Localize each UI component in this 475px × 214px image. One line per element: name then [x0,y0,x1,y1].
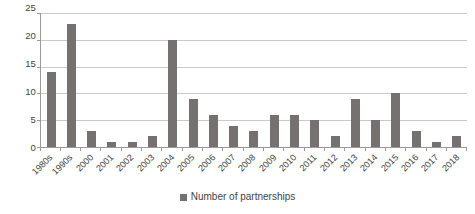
bar [290,115,299,147]
bar-slot [102,13,122,147]
bar [47,72,56,147]
bar-slot [61,13,81,147]
bar [391,93,400,147]
plot-area [40,13,467,147]
bar [371,120,380,147]
bar-slot [284,13,304,147]
bar-slot [345,13,365,147]
bar [209,115,218,147]
bar-slot [244,13,264,147]
bar-slot [163,13,183,147]
bar-series-number-of-partnerships [41,13,467,147]
y-axis-tick-label: 5 [31,115,36,125]
bar [67,24,76,147]
y-axis-tick-label: 25 [25,3,36,13]
y-axis-tick-label: 10 [25,87,36,97]
chart-legend: Number of partnerships [0,192,475,202]
y-axis-tick-label: 0 [31,143,36,153]
legend-item-label: Number of partnerships [191,192,296,202]
bar-slot [82,13,102,147]
bar-slot [183,13,203,147]
bar-chart: 2520151050 1980s1990s2000200120022003200… [0,0,475,214]
bar-slot [325,13,345,147]
bar-slot [203,13,223,147]
y-axis-tick-labels: 2520151050 [14,8,36,148]
bar [168,40,177,147]
bar-slot [386,13,406,147]
bar-slot [41,13,61,147]
y-axis-tick-label: 20 [25,31,36,41]
legend-swatch-icon [180,194,187,201]
bar-slot [305,13,325,147]
bar-slot [366,13,386,147]
y-axis-tick-label: 15 [25,59,36,69]
bar-slot [447,13,467,147]
bar-slot [122,13,142,147]
x-label-cell: 2018 [447,151,467,185]
bar [270,115,279,147]
bar-slot [426,13,446,147]
plot-wrapper: 2520151050 1980s1990s2000200120022003200… [0,0,475,160]
x-axis-tick-labels: 1980s1990s200020012002200320042005200620… [40,151,467,185]
bar-slot [264,13,284,147]
bar-slot [406,13,426,147]
bar-slot [142,13,162,147]
bar [310,120,319,147]
bar [189,99,198,147]
bar [351,99,360,147]
bar-slot [224,13,244,147]
